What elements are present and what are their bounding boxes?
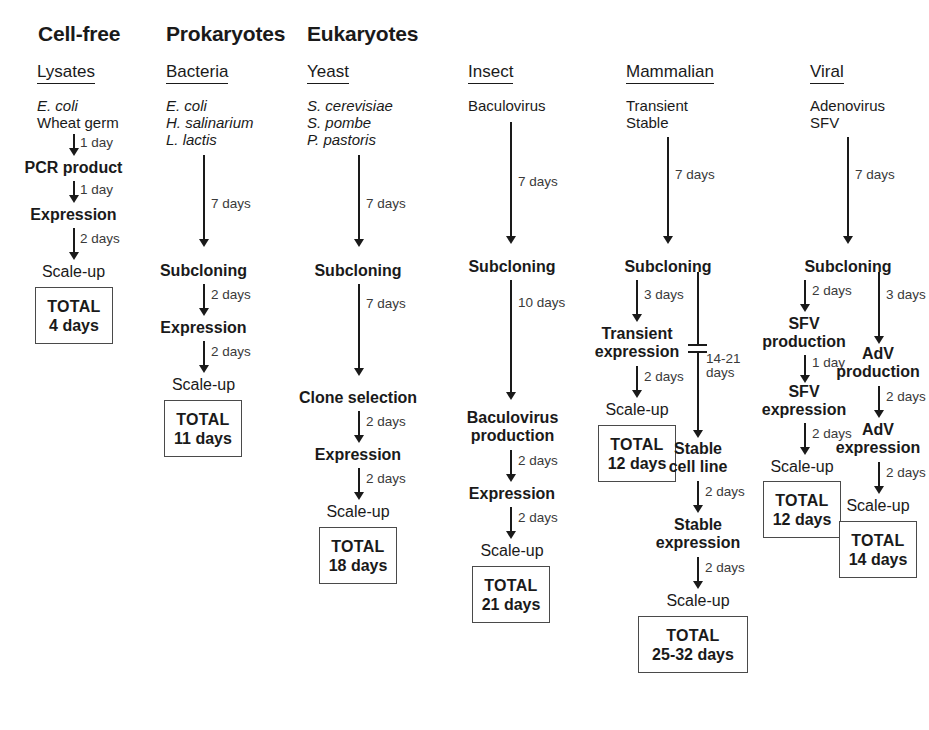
lysates-organism-0: E. coli [37,97,78,114]
mammalian-stable-step-0: Stable cell line [637,440,759,476]
mammalian-transient-step-0-line2: expression [576,343,698,361]
viral-sfv-step-0-line1: SFV [755,315,853,333]
bacteria-duration-1: 2 days [211,288,251,302]
yeast-organism-2: P. pastoris [307,131,376,148]
yeast-duration-0: 7 days [366,197,406,211]
yeast-organism-0: S. cerevisiae [307,97,393,114]
viral-adv-duration-1: 2 days [886,390,926,404]
insect-total-box: TOTAL 21 days [472,566,550,623]
insect-step-1-line1: Baculovirus [450,409,575,427]
column-header-yeast: Yeast [307,62,349,84]
diagram-canvas: Cell-free Prokaryotes Eukaryotes Lysates… [0,0,929,730]
viral-adv-step-1-line2: expression [824,439,929,457]
bacteria-step-2: Scale-up [146,376,261,394]
bacteria-duration-2: 2 days [211,345,251,359]
insect-duration-1: 10 days [518,296,565,310]
bacteria-duration-0: 7 days [211,197,251,211]
bacteria-organism-2: L. lactis [166,131,217,148]
mammalian-stable-step-0-line2: cell line [637,458,759,476]
viral-adv-step-0-line2: production [824,363,929,381]
bacteria-step-0: Subcloning [146,262,261,280]
viral-organism-1: SFV [810,114,839,131]
mammalian-transient-duration-1: 2 days [644,370,684,384]
column-header-viral-label: Viral [810,62,844,84]
mammalian-transient-step-0-line1: Transient [576,325,698,343]
mammalian-stable-total-label: TOTAL [666,626,719,645]
viral-sfv-total-value: 12 days [773,510,832,529]
viral-organism-0: Adenovirus [810,97,885,114]
yeast-step-1: Clone selection [288,389,428,407]
mammalian-transient-step-1: Scale-up [576,401,698,419]
mammalian-stable-step-1: Stable expression [637,516,759,552]
lysates-step-0: PCR product [16,159,131,177]
yeast-step-2: Expression [298,446,418,464]
column-header-mammalian: Mammalian [626,62,714,84]
viral-duration-shared: 7 days [855,168,895,182]
column-header-lysates-label: Lysates [37,62,95,84]
insect-step-0: Subcloning [452,258,572,276]
insect-organism-0: Baculovirus [468,97,546,114]
lysates-total-label: TOTAL [47,297,100,316]
column-header-lysates: Lysates [37,62,95,84]
bacteria-step-1: Expression [146,319,261,337]
lysates-step-2: Scale-up [16,263,131,281]
group-header-eukaryotes: Eukaryotes [307,22,418,46]
mammalian-transient-step-0: Transient expression [576,325,698,361]
bacteria-total-label: TOTAL [176,410,229,429]
mammalian-stable-total-box: TOTAL 25-32 days [638,616,748,673]
mammalian-step-shared: Subcloning [608,258,728,276]
column-header-viral: Viral [810,62,844,84]
lysates-duration-2: 2 days [80,232,120,246]
mammalian-stable-step-2: Scale-up [637,592,759,610]
bacteria-organism-0: E. coli [166,97,207,114]
viral-adv-duration-0: 3 days [886,288,926,302]
mammalian-stable-duration-0: 14-21 days [706,352,758,380]
viral-adv-total-value: 14 days [849,550,908,569]
group-header-cell-free: Cell-free [38,22,120,46]
insect-step-2: Expression [452,485,572,503]
viral-step-shared: Subcloning [788,258,908,276]
column-header-bacteria-label: Bacteria [166,62,228,84]
viral-sfv-step-2: Scale-up [753,458,851,476]
mammalian-stable-step-0-line1: Stable [637,440,759,458]
viral-adv-step-1-line1: AdV [824,421,929,439]
mammalian-transient-duration-0: 3 days [644,288,684,302]
mammalian-stable-step-1-line2: expression [637,534,759,552]
viral-adv-step-0-line1: AdV [824,345,929,363]
mammalian-stable-step-1-line1: Stable [637,516,759,534]
mammalian-stable-break-tick-1 [688,344,707,346]
lysates-duration-0: 1 day [80,136,113,150]
mammalian-duration-shared: 7 days [675,168,715,182]
group-header-prokaryotes: Prokaryotes [166,22,285,46]
viral-adv-step-2: Scale-up [824,497,929,515]
viral-adv-total-box: TOTAL 14 days [839,521,917,578]
yeast-total-label: TOTAL [331,537,384,556]
column-header-insect-label: Insect [468,62,513,84]
insect-total-label: TOTAL [484,576,537,595]
insect-duration-3: 2 days [518,511,558,525]
mammalian-stable-duration-0-line1: 14-21 [706,352,758,366]
viral-sfv-step-1-line1: SFV [755,383,853,401]
viral-sfv-step-1: SFV expression [755,383,853,419]
viral-sfv-step-1-line2: expression [755,401,853,419]
viral-adv-step-0: AdV production [824,345,929,381]
mammalian-stable-duration-1: 2 days [705,485,745,499]
viral-adv-step-1: AdV expression [824,421,929,457]
column-header-yeast-label: Yeast [307,62,349,84]
bacteria-total-box: TOTAL 11 days [164,400,242,457]
insect-total-value: 21 days [482,595,541,614]
yeast-step-0: Subcloning [298,262,418,280]
viral-sfv-duration-0: 2 days [812,284,852,298]
yeast-step-3: Scale-up [298,503,418,521]
mammalian-organism-1: Stable [626,114,669,131]
column-header-insect: Insect [468,62,513,84]
bacteria-total-value: 11 days [174,429,232,448]
insect-step-3: Scale-up [452,542,572,560]
mammalian-stable-duration-2: 2 days [705,561,745,575]
insect-duration-0: 7 days [518,175,558,189]
mammalian-stable-duration-0-line2: days [706,366,758,380]
viral-adv-duration-2: 2 days [886,466,926,480]
insect-duration-2: 2 days [518,454,558,468]
lysates-total-value: 4 days [49,316,99,335]
mammalian-organism-0: Transient [626,97,688,114]
